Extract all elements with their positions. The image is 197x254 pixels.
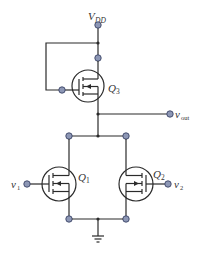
mosfet-q1 xyxy=(30,139,76,217)
vdd-terminal[interactable] xyxy=(95,22,101,28)
q1-arrow-icon xyxy=(56,181,61,186)
q1-drain-terminal[interactable] xyxy=(66,133,72,139)
q3-arrow-icon xyxy=(86,84,91,89)
q1-source-terminal[interactable] xyxy=(66,216,72,222)
junction-dot xyxy=(96,41,99,44)
q2-source-terminal[interactable] xyxy=(123,216,129,222)
svg-text:2: 2 xyxy=(180,184,183,191)
vout-terminal[interactable] xyxy=(167,111,173,117)
q1-label: Q 1 xyxy=(78,171,90,185)
svg-text:v: v xyxy=(174,178,179,190)
v1-label: v 1 xyxy=(11,178,20,191)
svg-text:1: 1 xyxy=(86,176,90,185)
q2-arrow-icon xyxy=(134,181,139,186)
svg-text:1: 1 xyxy=(17,184,20,191)
junction-dot xyxy=(96,134,99,137)
svg-text:out: out xyxy=(181,114,190,121)
v2-label: v 2 xyxy=(174,178,183,191)
q3-drain-terminal[interactable] xyxy=(95,55,101,61)
svg-text:Q: Q xyxy=(108,82,116,94)
q2-drain-terminal[interactable] xyxy=(123,133,129,139)
ground-icon xyxy=(92,236,104,242)
circuit-diagram: V DD Q 3 v out xyxy=(0,0,197,254)
svg-text:3: 3 xyxy=(116,87,120,96)
svg-text:v: v xyxy=(175,108,180,120)
svg-text:Q: Q xyxy=(78,171,86,183)
v1-terminal[interactable] xyxy=(24,181,30,187)
v2-terminal[interactable] xyxy=(165,181,171,187)
q3-label: Q 3 xyxy=(108,82,120,96)
q3-gate-terminal[interactable] xyxy=(59,87,65,93)
svg-text:Q: Q xyxy=(153,168,161,180)
q2-label: Q 2 xyxy=(153,168,165,182)
vout-label: v out xyxy=(175,108,190,121)
svg-text:v: v xyxy=(11,178,16,190)
svg-text:2: 2 xyxy=(161,173,165,182)
mosfet-q3 xyxy=(59,55,104,114)
